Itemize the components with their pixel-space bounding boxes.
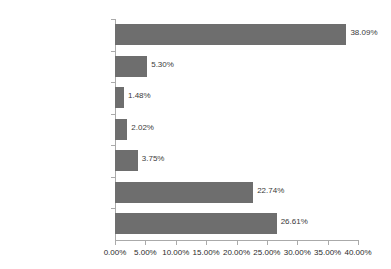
- x-axis-tick: [145, 241, 146, 245]
- x-axis-tick-label: 35.00%: [314, 248, 341, 258]
- x-axis-tick-label: 15.00%: [193, 248, 220, 258]
- y-axis-tick: [111, 82, 115, 83]
- x-axis-tick: [328, 241, 329, 245]
- y-axis-tick: [111, 145, 115, 146]
- x-axis-tick-label: 10.00%: [162, 248, 189, 258]
- x-axis-tick: [176, 241, 177, 245]
- y-axis-tick: [111, 208, 115, 209]
- bar-row: Personal Computers38.09%: [115, 19, 358, 51]
- bar-row: Mid-range Computers5.30%: [115, 51, 358, 83]
- bar-chart: Personal Computers38.09%Mid-range Comput…: [0, 0, 391, 269]
- x-axis-tick: [267, 241, 268, 245]
- y-axis-tick: [111, 19, 115, 20]
- plot-area: Personal Computers38.09%Mid-range Comput…: [115, 19, 358, 240]
- bar-value-label: 26.61%: [281, 217, 308, 227]
- bar-value-label: 1.48%: [128, 91, 151, 101]
- x-axis-tick-label: 40.00%: [344, 248, 371, 258]
- bar-value-label: 3.75%: [142, 154, 165, 164]
- x-axis-tick: [297, 241, 298, 245]
- bar-row: Operating Software22.74%: [115, 177, 358, 209]
- bar[interactable]: [115, 182, 253, 203]
- bar[interactable]: [115, 213, 277, 234]
- x-axis-tick-label: 30.00%: [284, 248, 311, 258]
- y-axis-tick: [111, 177, 115, 178]
- x-axis-tick: [206, 241, 207, 245]
- bar[interactable]: [115, 56, 147, 77]
- y-axis-tick: [111, 114, 115, 115]
- bar-row: Networks3.75%: [115, 145, 358, 177]
- x-axis-tick: [358, 241, 359, 245]
- bar-value-label: 5.30%: [151, 60, 174, 70]
- x-axis-tick-label: 0.00%: [104, 248, 127, 258]
- bar[interactable]: [115, 24, 346, 45]
- bar-row: Application Software26.61%: [115, 208, 358, 240]
- x-axis-tick-label: 25.00%: [253, 248, 280, 258]
- bar[interactable]: [115, 87, 124, 108]
- bar-row: Mainframe Computers1.48%: [115, 82, 358, 114]
- bar[interactable]: [115, 150, 138, 171]
- bar-value-label: 38.09%: [350, 28, 377, 38]
- x-axis-tick: [237, 241, 238, 245]
- bar-value-label: 22.74%: [257, 186, 284, 196]
- x-axis-tick: [115, 241, 116, 245]
- x-axis-tick-label: 5.00%: [134, 248, 157, 258]
- bar-value-label: 2.02%: [131, 123, 154, 133]
- bar-row: Storage Devices2.02%: [115, 114, 358, 146]
- bar[interactable]: [115, 119, 127, 140]
- x-axis-tick-label: 20.00%: [223, 248, 250, 258]
- y-axis-tick: [111, 51, 115, 52]
